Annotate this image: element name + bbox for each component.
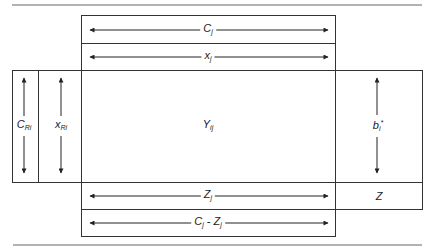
y-ij-label: Yij — [200, 118, 216, 134]
b-i-star-label: bi* — [373, 115, 383, 137]
z-j-label: Zj — [201, 188, 215, 204]
main-band-box — [13, 71, 423, 183]
x-ri-label: xRi — [55, 116, 67, 136]
corner-z-label: Z — [373, 190, 386, 202]
c-j-label: Cj — [200, 22, 216, 38]
c-ri-label: CRi — [17, 116, 32, 136]
x-j-label: xj — [201, 49, 214, 65]
c-minus-z-label: Cj - Zj — [191, 215, 225, 231]
